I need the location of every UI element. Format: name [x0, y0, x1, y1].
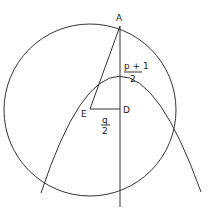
- segment-AE: [90, 26, 120, 109]
- geometry-diagram: A D E p + 1 2 q 2: [0, 0, 211, 220]
- parabola: [41, 76, 201, 193]
- fraction-AD-denominator: 2: [130, 74, 136, 84]
- fraction-ED-denominator: 2: [102, 126, 108, 136]
- fraction-AD-numerator: p + 1: [124, 61, 149, 71]
- point-label-D: D: [123, 105, 130, 115]
- circle: [4, 24, 176, 196]
- fraction-ED-numerator: q: [102, 115, 108, 125]
- point-label-E: E: [81, 109, 87, 119]
- point-label-A: A: [116, 13, 123, 23]
